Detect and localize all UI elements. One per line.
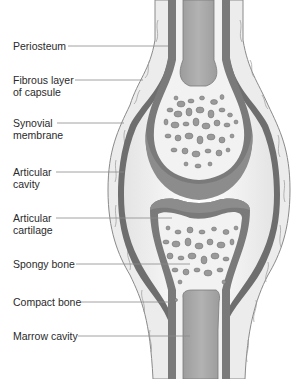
label-marrow-cavity: Marrow cavity xyxy=(13,330,78,342)
label-text: Marrow cavity xyxy=(13,330,78,342)
label-compact-bone: Compact bone xyxy=(13,296,81,308)
label-text: cartilage xyxy=(13,224,53,236)
label-text: of capsule xyxy=(13,86,74,98)
label-text: membrane xyxy=(13,129,63,141)
lower-marrow-cavity xyxy=(183,290,220,379)
label-text: cavity xyxy=(13,178,52,190)
label-text: Periosteum xyxy=(13,40,66,52)
label-articular-cavity: Articular cavity xyxy=(13,166,52,190)
label-articular-cartilage: Articular cartilage xyxy=(13,212,53,236)
label-text: Synovial xyxy=(13,117,63,129)
label-text: Articular xyxy=(13,212,53,224)
label-periosteum: Periosteum xyxy=(13,40,66,52)
label-text: Fibrous layer xyxy=(13,74,74,86)
label-text: Spongy bone xyxy=(13,258,75,270)
label-spongy-bone: Spongy bone xyxy=(13,258,75,270)
label-fibrous-layer: Fibrous layer of capsule xyxy=(13,74,74,98)
label-text: Compact bone xyxy=(13,296,81,308)
upper-marrow-cavity xyxy=(180,0,217,86)
label-synovial-membrane: Synovial membrane xyxy=(13,117,63,141)
label-text: Articular xyxy=(13,166,52,178)
